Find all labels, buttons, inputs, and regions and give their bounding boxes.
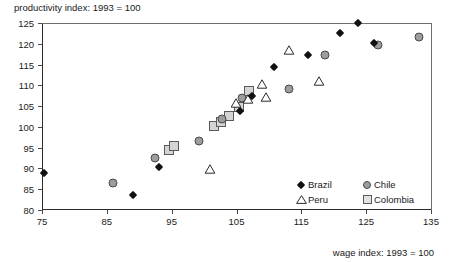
data-point-chile — [108, 178, 117, 187]
legend-entry-colombia: Colombia — [360, 194, 426, 205]
y-tick-label: 120 — [0, 38, 34, 49]
data-point-chile — [151, 154, 160, 163]
circle-icon — [360, 181, 374, 189]
data-point-peru — [284, 50, 294, 59]
data-point-chile — [320, 50, 329, 59]
x-tick-mark — [172, 210, 173, 214]
x-tick-mark — [107, 210, 108, 214]
plot-frame-right-border — [431, 23, 432, 210]
y-tick-label: 105 — [0, 101, 34, 112]
x-tick-label: 75 — [37, 216, 48, 227]
y-tick-label: 90 — [0, 163, 34, 174]
triangle-icon — [294, 195, 308, 204]
y-tick-label: 125 — [0, 18, 34, 29]
data-point-peru — [314, 81, 324, 90]
x-tick-mark — [301, 210, 302, 214]
x-tick-label: 95 — [166, 216, 177, 227]
chart-title: productivity index: 1993 = 100 — [14, 2, 141, 13]
y-tick-label: 110 — [0, 80, 34, 91]
x-tick-mark — [431, 210, 432, 214]
y-tick-mark — [38, 65, 42, 66]
y-tick-label: 115 — [0, 59, 34, 70]
legend-row: Peru Colombia — [294, 192, 426, 207]
data-point-peru — [243, 99, 253, 108]
y-tick-mark — [38, 106, 42, 107]
y-tick-mark — [38, 148, 42, 149]
data-point-peru — [261, 97, 271, 106]
x-tick-label: 85 — [102, 216, 113, 227]
y-tick-label: 85 — [0, 184, 34, 195]
x-tick-mark — [237, 210, 238, 214]
square-icon — [360, 195, 374, 204]
y-tick-mark — [38, 23, 42, 24]
triangle-glyph — [296, 195, 307, 204]
x-tick-label: 125 — [358, 216, 374, 227]
data-point-colombia — [169, 141, 179, 151]
y-tick-mark — [38, 127, 42, 128]
x-tick-mark — [42, 210, 43, 214]
scatter-chart-figure: productivity index: 1993 = 100 808590951… — [0, 0, 452, 262]
y-tick-label: 95 — [0, 142, 34, 153]
chart-legend: Brazil Chile Peru Colombia — [294, 177, 426, 207]
legend-entry-chile: Chile — [360, 179, 426, 190]
legend-label: Colombia — [374, 194, 414, 205]
legend-entry-peru: Peru — [294, 194, 360, 205]
x-tick-label: 115 — [294, 216, 309, 227]
legend-label: Brazil — [308, 179, 332, 190]
x-tick-label: 105 — [229, 216, 245, 227]
data-point-chile — [194, 137, 203, 146]
y-tick-mark — [38, 85, 42, 86]
plot-frame-top-border — [42, 23, 431, 24]
data-point-peru — [205, 169, 215, 178]
data-point-chile — [415, 33, 424, 42]
y-tick-mark — [38, 44, 42, 45]
data-point-chile — [285, 85, 294, 94]
x-axis-title: wage index: 1993 = 100 — [333, 247, 434, 258]
x-tick-mark — [366, 210, 367, 214]
y-tick-label: 100 — [0, 121, 34, 132]
legend-row: Brazil Chile — [294, 177, 426, 192]
y-tick-label: 80 — [0, 205, 34, 216]
legend-label: Peru — [308, 194, 328, 205]
y-tick-mark — [38, 168, 42, 169]
x-tick-label: 135 — [423, 216, 439, 227]
y-tick-mark — [38, 189, 42, 190]
data-point-chile — [218, 115, 227, 124]
diamond-icon — [294, 182, 308, 188]
legend-label: Chile — [374, 179, 396, 190]
legend-entry-brazil: Brazil — [294, 179, 360, 190]
